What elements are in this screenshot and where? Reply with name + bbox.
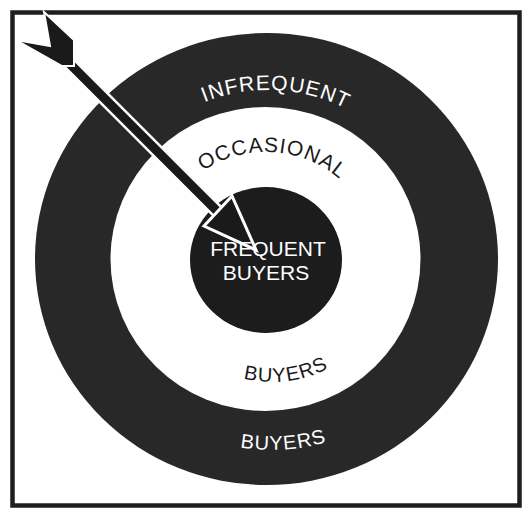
label-frequent: FREQUENT	[210, 237, 326, 260]
label-frequent-buyers: BUYERS	[223, 261, 309, 284]
target-diagram: INFREQUENT OCCASIONAL BUYERS BUYERS FREQ…	[0, 0, 531, 517]
bullseye-svg: INFREQUENT OCCASIONAL BUYERS BUYERS FREQ…	[0, 0, 531, 517]
